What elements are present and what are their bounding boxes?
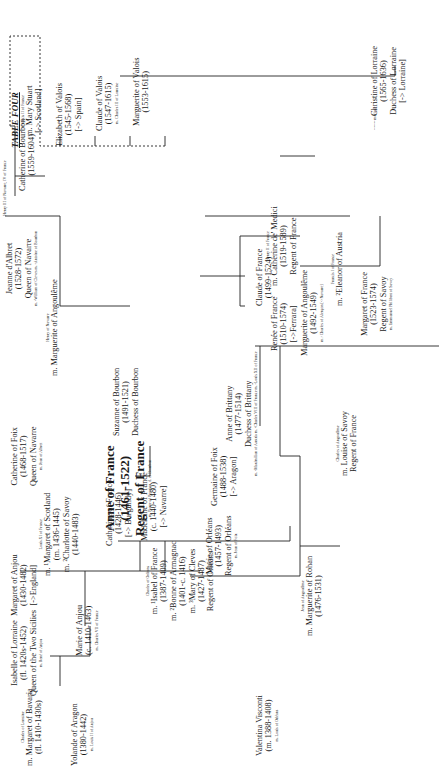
person-name-line: (c. 1410-1463): [84, 605, 93, 656]
person-marguerite-angouleme-2: Marguerite of Angoulême(1492-1549)m.¹ Ch…: [300, 270, 324, 356]
person-name-line: m. Marguerite of Rohan: [305, 556, 314, 636]
marriage-note: m. Jean of Foix: [233, 516, 238, 576]
person-claude-valois: Claude of Valois(1547-1615)m. Charles II…: [95, 76, 119, 131]
person-anne-france: Anne of France(1461-1522)Regent of Franc…: [102, 441, 153, 536]
person-marie-orleans: Marie of Orléans(1457-1493)Regent of Orl…: [205, 516, 238, 576]
person-name-line: Henry III of Navarre, IV of France: [2, 160, 7, 216]
person-name-line: Marie of Anjou: [75, 605, 84, 656]
person-mary-stuart: Francis II of Francem. Mary Stuart[-> Sc…: [20, 86, 44, 136]
person-name-line: [-> Spain]: [74, 83, 83, 146]
person-name-line: (1491-1521): [121, 368, 130, 436]
person-marguerite-angouleme-1: Henry of Navarrem. Marguerite of Angoulê…: [45, 279, 59, 376]
person-elizabeth-valois: Elizabeth of Valois(1545-1568)[-> Spain]: [55, 83, 83, 146]
person-name-line: m. ²Eleanor of Austria: [335, 232, 344, 306]
person-name-line: (1519-1589): [279, 206, 288, 286]
person-name-line: Duchess of Lorraine: [389, 46, 398, 116]
person-name-line: Elizabeth of Valois: [55, 83, 64, 146]
person-valentina-visconti: Valentina Visconti(m. 1388-1408)m. Louis…: [255, 695, 279, 756]
person-name-line: (1430-1482): [19, 554, 28, 616]
person-name-line: Claude of Valois: [95, 76, 104, 131]
person-marguerite-valois: Marguerite of Valois(1553-1615): [132, 58, 151, 126]
person-name-line: m. Louise of Savoy: [340, 411, 349, 476]
person-name-line: (1523-1574): [369, 272, 378, 336]
person-name-line: (1477-1514): [234, 351, 243, 476]
person-renee-france: Renée of France(1510-1574)[->Ferrara]: [270, 297, 298, 351]
person-margaret-france: Margaret of France(1523-1574)Regent of S…: [360, 272, 393, 336]
person-name-line: m. Margaret of Bavaria: [25, 688, 34, 766]
legend-line: -------: [372, 121, 377, 130]
marriage-note: m. Pierre of Beaujeu, d. of Bourbon: [147, 441, 153, 536]
person-name-line: (1547-1615): [104, 76, 113, 131]
person-name-line: (1565-1636): [379, 46, 388, 116]
person-name-line: Yolande of Aragon: [70, 703, 79, 766]
marriage-note: m. ¹Maximilian of Austria m. ²Charles VI…: [253, 351, 258, 476]
person-name-line: (m. 1388-1408): [264, 695, 273, 756]
person-name-line: Germaine of Foix: [210, 447, 219, 506]
person-suzanne-bourbon: Suzanne of Bourbon(1491-1521)Duchess of …: [112, 368, 140, 436]
person-name-line: Regent of France: [289, 206, 298, 286]
person-name-line: Queen of the Two Sicilies: [29, 610, 38, 696]
person-name-line: Queen of Navarre: [29, 427, 38, 486]
person-yolande-aragon: Yolande of Aragon(1380-1442)m. Louis II …: [70, 703, 94, 766]
person-name-line: (fl. 1420s-1452): [19, 610, 28, 696]
genealogy-table: TABLE FOUR ------- mariage Charles of Lo…: [0, 0, 439, 776]
person-name-line: (1553-1615): [141, 58, 150, 126]
person-name-line: Christine of Lorraine: [370, 46, 379, 116]
person-name-line: (m. 1436-1445): [52, 493, 61, 576]
person-name-line: Marguerite of Valois: [132, 58, 141, 126]
person-name-line: (1492-1549): [309, 270, 318, 356]
person-name-line: Regent of Orléans: [224, 516, 233, 576]
person-jeanne-albret: Jeanne d'Albret(1528-1572)Queen of Navar…: [5, 231, 38, 306]
person-margaret-scotland: Louis XI of Francem. ¹Margaret of Scotla…: [38, 493, 81, 576]
marriage-note: m. Charles VII of France: [94, 605, 99, 656]
person-anne-brittany: Anne of Brittany(1477-1514)Duchess of Br…: [225, 351, 258, 476]
marriage-note: m. Jean of Albret: [38, 427, 43, 486]
person-name-line: (1468-1517): [19, 427, 28, 486]
person-name-line: Claude of France: [255, 249, 264, 306]
person-name-line: Margaret of France: [360, 272, 369, 336]
person-name-line: Isabelle of Lorraine: [10, 610, 19, 696]
person-name-line: Regent of Savoy: [379, 272, 388, 336]
person-name-line: Anne of France: [102, 441, 117, 536]
marriage-note: m. Charles III of Lorraine: [114, 76, 119, 131]
person-name-line: [->Ferrara]: [289, 297, 298, 351]
person-name-line: m. ²Charlotte of Savoy: [62, 493, 71, 576]
person-isabelle-lorraine: Isabelle of Lorraine(fl. 1420s-1452)Quee…: [10, 610, 43, 696]
person-name-line: m. ¹Margaret of Scotland: [43, 493, 52, 576]
person-catherine-foix: Catherine of Foix(1468-1517)Queen of Nav…: [10, 427, 43, 486]
person-name-line: (1545-1568): [64, 83, 73, 146]
person-name-line: m. ¹Isabel of France: [150, 541, 159, 621]
marriage-note: m. Louis II of Anjou: [89, 703, 94, 766]
person-name-line: m. ³Mary of Cleves: [188, 541, 197, 621]
person-name-line: (1461-1522): [117, 441, 132, 536]
marriage-note: m. René of Anjou: [38, 610, 43, 696]
person-name-line: Margaret of Anjou: [10, 554, 19, 616]
person-name-line: Marguerite of Angoulême: [300, 270, 309, 356]
person-name-line: Jeanne d'Albret: [5, 231, 14, 306]
person-name-line: (1457-1493): [214, 516, 223, 576]
person-name-line: Anne of Brittany: [225, 351, 234, 476]
person-name-line: m. Catherine de' Medici: [270, 206, 279, 286]
person-eleanor-austria: Francis I of Francem. ²Eleanor of Austri…: [330, 232, 344, 306]
person-name-line: m. ²Bonne of Armagnac: [169, 541, 178, 621]
person-name-line: [-> Scotland]: [34, 86, 43, 136]
person-catherine-medici: Henry II of Francem. Catherine de' Medic…: [265, 206, 298, 286]
marriage-note: m. Louis of Orléans: [274, 695, 279, 756]
person-name-line: (1401-c. 1416): [178, 541, 187, 621]
person-name-line: (1476-1531): [314, 556, 323, 636]
person-name-line: Catherine of Foix: [10, 427, 19, 486]
person-name-line: [->England]: [29, 554, 38, 616]
person-name-line: [-> Lorraine]: [398, 46, 407, 116]
person-name-line: (1528-1572): [14, 231, 23, 306]
person-name-line: m. Marguerite of Angoulême: [50, 279, 59, 376]
person-henry-navarre: Henry III of Navarre, IV of France: [2, 160, 7, 216]
person-name-line: (1387-1409): [159, 541, 168, 621]
person-name-line: Suzanne of Bourbon: [112, 368, 121, 436]
person-name-line: Marie of Orléans: [205, 516, 214, 576]
person-marguerite-rohan: Jean of Angoulêmem. Marguerite of Rohan(…: [300, 556, 324, 636]
person-name-line: Duchess of Brittany: [244, 351, 253, 476]
person-name-line: Duchess of Bourbon: [131, 368, 140, 436]
marriage-note: m. Emmanuel Philibert of Savoy: [388, 272, 393, 336]
person-marie-anjou: Marie of Anjou(c. 1410-1463)m. Charles V…: [75, 605, 99, 656]
person-name-line: Valentina Visconti: [255, 695, 264, 756]
